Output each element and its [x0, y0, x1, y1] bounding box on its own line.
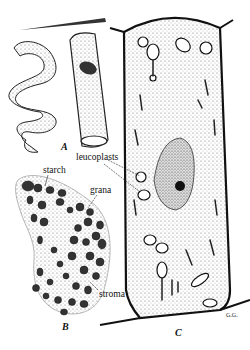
figure-label-b: B: [62, 322, 69, 332]
annotation-leucoplasts: leucoplasts: [76, 153, 118, 163]
panel-b-chloroplast: [16, 175, 111, 315]
plastid-illustration: [0, 0, 250, 350]
annotation-starch: starch: [43, 166, 66, 176]
panel-a-needle: [20, 18, 106, 30]
panel-a-cylinder: [70, 33, 108, 147]
figure-label-c: C: [175, 328, 182, 338]
figure-label-a: A: [61, 142, 68, 152]
panel-c-cell: [100, 18, 250, 325]
annotation-grana: grana: [90, 186, 111, 196]
artist-signature: G.G.: [226, 312, 238, 318]
annotation-stroma: stroma: [99, 290, 125, 300]
panel-a-spiral: [9, 42, 56, 153]
